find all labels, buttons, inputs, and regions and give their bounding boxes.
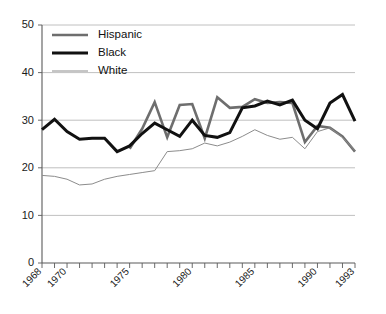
- x-tick-label-1985: 1985: [233, 265, 257, 289]
- series-line-hispanic: [130, 97, 355, 151]
- chart-legend: HispanicBlackWhite: [52, 28, 142, 76]
- y-tick-label-20: 20: [22, 161, 34, 173]
- x-tick-label-1968: 1968: [20, 265, 44, 289]
- x-tick-labels: 1968197019751980198519901993: [20, 263, 357, 289]
- legend-label-white: White: [98, 64, 127, 76]
- y-tick-labels: 01020304050: [22, 18, 42, 268]
- x-tick-label-1980: 1980: [170, 265, 194, 289]
- chart-canvas: 01020304050 1968197019751980198519901993…: [0, 0, 386, 314]
- x-tick-label-1975: 1975: [108, 265, 132, 289]
- legend-label-black: Black: [98, 46, 126, 58]
- x-tick-label-1970: 1970: [45, 265, 69, 289]
- y-tick-label-30: 30: [22, 114, 34, 126]
- x-tick-label-1993: 1993: [333, 265, 357, 289]
- y-tick-label-50: 50: [22, 18, 34, 30]
- x-tick-label-1990: 1990: [295, 265, 319, 289]
- series-lines: [42, 95, 355, 185]
- y-tick-label-40: 40: [22, 66, 34, 78]
- line-chart: 01020304050 1968197019751980198519901993…: [0, 0, 386, 314]
- y-tick-label-10: 10: [22, 209, 34, 221]
- legend-label-hispanic: Hispanic: [98, 28, 142, 40]
- y-tick-label-0: 0: [28, 256, 34, 268]
